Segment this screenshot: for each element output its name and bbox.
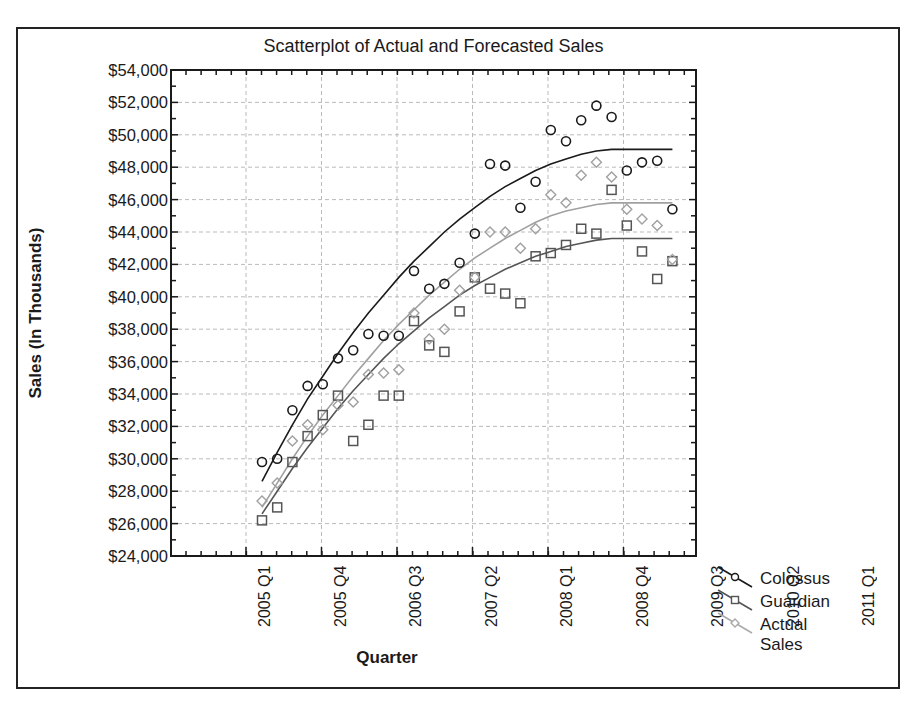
y-tick-label: $24,000 <box>108 547 168 566</box>
legend-label: Colossus <box>760 569 830 589</box>
diamond-marker-icon <box>716 610 756 636</box>
x-tick-label: 2005 Q1 <box>256 566 274 640</box>
y-tick-label: $38,000 <box>108 320 168 339</box>
x-tick-label: 2011 Q1 <box>860 566 878 640</box>
y-tick-label: $44,000 <box>108 223 168 242</box>
y-tick-label: $34,000 <box>108 385 168 404</box>
y-tick-label: $42,000 <box>108 255 168 274</box>
y-tick-label: $48,000 <box>108 158 168 177</box>
x-tick-label: 2006 Q3 <box>407 566 425 640</box>
y-tick-label: $26,000 <box>108 514 168 533</box>
legend-label: Actual Sales <box>760 615 807 655</box>
x-tick-label: 2008 Q4 <box>634 566 652 640</box>
y-tick-label: $46,000 <box>108 190 168 209</box>
y-tick-label: $52,000 <box>108 93 168 112</box>
y-tick-label: $54,000 <box>108 61 168 80</box>
legend-label: Guardian <box>760 592 830 612</box>
x-tick-label: 2005 Q4 <box>332 566 350 640</box>
y-tick-label: $28,000 <box>108 482 168 501</box>
y-tick-label: $32,000 <box>108 417 168 436</box>
x-tick-label: 2007 Q2 <box>483 566 501 640</box>
y-tick-label: $36,000 <box>108 352 168 371</box>
x-tick-label: 2008 Q1 <box>558 566 576 640</box>
y-tick-label: $40,000 <box>108 287 168 306</box>
y-tick-label: $50,000 <box>108 125 168 144</box>
y-tick-label: $30,000 <box>108 449 168 468</box>
